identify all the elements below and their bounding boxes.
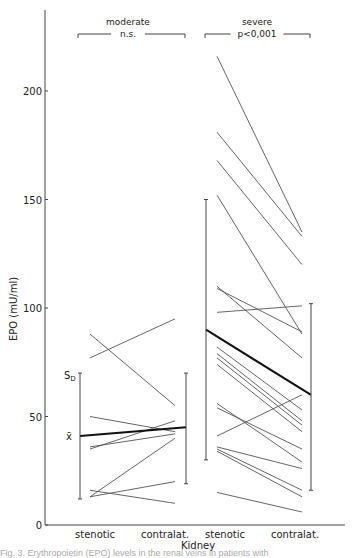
y-ticks: 050100150200	[23, 86, 48, 531]
patient-line	[217, 132, 302, 236]
category-label: contralat.	[271, 529, 319, 540]
mean-symbol-label: x̄	[66, 431, 72, 442]
patient-line	[217, 364, 302, 431]
y-tick-label: 50	[29, 412, 42, 423]
category-label: contralat.	[141, 529, 189, 540]
y-tick-label: 0	[36, 520, 42, 531]
patient-line	[217, 288, 302, 331]
category-label: stenotic	[205, 529, 245, 540]
patient-line	[217, 492, 302, 512]
y-axis-label: EPO (mU/ml)	[8, 277, 19, 341]
patient-line	[90, 482, 175, 497]
patient-line	[90, 319, 175, 358]
figure-caption: Fig. 3. Erythropoietin (EPO) levels in t…	[0, 548, 357, 558]
patient-line	[217, 160, 302, 264]
patient-line	[217, 195, 302, 334]
patient-line	[90, 490, 175, 503]
patient-line	[90, 438, 175, 497]
mean-line	[206, 330, 311, 395]
patient-line	[90, 334, 175, 406]
y-tick-label: 100	[23, 303, 42, 314]
bracket-left	[205, 34, 231, 38]
sd-symbol-label: SD	[64, 370, 76, 383]
bracket-right	[283, 34, 310, 38]
significance-label: n.s.	[120, 29, 136, 39]
category-label: stenotic	[75, 529, 115, 540]
patient-line	[217, 306, 302, 313]
bracket-right	[145, 34, 185, 38]
group-severe: severep<0,001stenoticcontralat.	[204, 17, 319, 540]
sd-subscript: D	[70, 375, 75, 383]
patient-line	[217, 408, 302, 449]
patient-line	[217, 449, 302, 490]
y-tick-label: 200	[23, 86, 42, 97]
y-tick-label: 150	[23, 195, 42, 206]
bracket-left	[78, 34, 111, 38]
group-label: severe	[242, 17, 273, 27]
chart: 050100150200 moderaten.s.stenoticcontral…	[0, 0, 357, 558]
patient-line	[217, 286, 302, 358]
groups: moderaten.s.stenoticcontralat.SDx̄severe…	[64, 17, 319, 540]
group-label: moderate	[106, 17, 150, 27]
patient-line	[217, 56, 302, 232]
patient-line	[217, 403, 302, 462]
significance-label: p<0,001	[237, 29, 276, 39]
group-moderate: moderaten.s.stenoticcontralat.SDx̄	[64, 17, 189, 540]
